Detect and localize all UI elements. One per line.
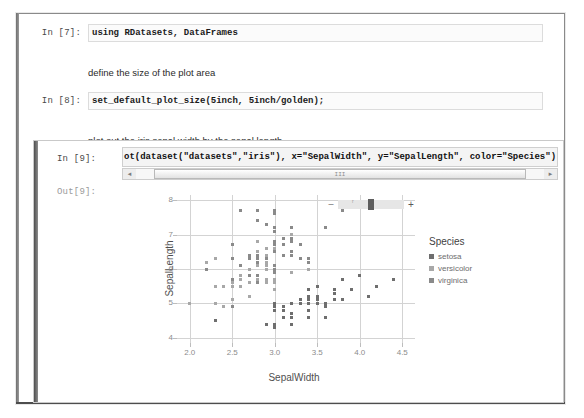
x-axis-label: SepalWidth (174, 372, 414, 383)
scatter-point (290, 226, 293, 229)
scatter-point (273, 281, 276, 284)
legend-item[interactable]: versicolor (429, 264, 525, 273)
markdown-text-1[interactable]: define the size of the plot area (88, 66, 215, 79)
x-tick-mark (360, 343, 361, 347)
scrollbar-right-arrow-icon[interactable]: ► (544, 169, 557, 179)
scatter-point (290, 316, 293, 319)
scatter-point (265, 278, 268, 281)
scatter-point (265, 261, 268, 264)
scatter-point (290, 271, 293, 274)
gridline-horizontal (177, 235, 415, 236)
legend-item[interactable]: setosa (429, 252, 525, 261)
x-tick-mark (190, 343, 191, 347)
scatter-point (265, 268, 268, 271)
scatter-point (282, 309, 285, 312)
scatter-point (214, 285, 217, 288)
scatter-point (256, 281, 259, 284)
y-tick-mark (173, 303, 177, 304)
legend-title: Species (429, 236, 525, 247)
scatter-point (265, 247, 268, 250)
scatter-point (222, 285, 225, 288)
x-tick-label: 2.0 (176, 348, 204, 357)
scatter-point (273, 250, 276, 253)
scatter-point (299, 243, 302, 246)
y-tick-label: 6 (151, 264, 173, 273)
code-text-in7: using RDatasets, DataFrames (89, 25, 542, 42)
scatter-point (265, 323, 268, 326)
notebook-cell-in7[interactable]: In [7]: using RDatasets, DataFrames (25, 24, 543, 42)
scatter-point (307, 298, 310, 301)
zoom-slider-thumb[interactable] (368, 199, 374, 210)
notebook-cell-in8[interactable]: In [8]: set_default_plot_size(5inch, 5in… (25, 92, 543, 110)
legend-item[interactable]: virginica (429, 276, 525, 285)
plot-panel: 456782.02.53.03.54.04.5 (177, 195, 415, 343)
cell-selection-bar (34, 141, 38, 402)
gridline-horizontal (177, 269, 415, 270)
legend-label: versicolor (438, 264, 472, 273)
scatter-point (290, 254, 293, 257)
y-tick-label: 8 (151, 195, 173, 204)
y-tick-label: 7 (151, 230, 173, 239)
gridline-vertical (190, 195, 191, 343)
code-input-in7[interactable]: using RDatasets, DataFrames (88, 24, 543, 42)
scatter-point (205, 268, 208, 271)
scatter-point (307, 288, 310, 291)
scatter-point (358, 274, 361, 277)
gridline-vertical (317, 195, 318, 343)
scrollbar-track[interactable]: III (136, 169, 544, 179)
scatter-point (316, 295, 319, 298)
legend-swatch-icon (429, 266, 434, 271)
zoom-out-icon[interactable]: – (325, 200, 337, 209)
scatter-point (307, 309, 310, 312)
scatter-point (239, 209, 242, 212)
legend-label: setosa (438, 252, 462, 261)
scatter-point (248, 295, 251, 298)
plot-zoom-control[interactable]: – r + (325, 198, 417, 211)
scatter-point (290, 302, 293, 305)
scatter-point (375, 285, 378, 288)
scrollbar-grip-icon: III (335, 171, 346, 178)
scatter-point (273, 278, 276, 281)
zoom-slider-track[interactable]: r (338, 200, 404, 209)
scatter-point (299, 302, 302, 305)
scatter-point (341, 278, 344, 281)
scatter-point (282, 316, 285, 319)
scatter-point (324, 305, 327, 308)
scatter-point (214, 257, 217, 260)
scatter-point (282, 237, 285, 240)
y-tick-mark (173, 338, 177, 339)
code-input-in9[interactable]: ot(dataset("datasets","iris"), x="SepalW… (122, 147, 558, 167)
code-input-in8[interactable]: set_default_plot_size(5inch, 5inch/golde… (88, 92, 543, 110)
scatter-point (290, 323, 293, 326)
scatter-point (307, 261, 310, 264)
zoom-in-icon[interactable]: + (405, 200, 417, 209)
scatter-point (214, 302, 217, 305)
gridline-vertical (360, 195, 361, 343)
scatter-point (256, 261, 259, 264)
scatter-point (273, 323, 276, 326)
scatter-point (248, 274, 251, 277)
scatter-point (231, 257, 234, 260)
scrollbar-thumb[interactable]: III (154, 169, 526, 179)
legend-swatch-icon (429, 254, 434, 259)
scatter-point (256, 219, 259, 222)
plot-output[interactable]: SepalLength SepalWidth 456782.02.53.03.5… (129, 189, 529, 394)
x-tick-mark (317, 343, 318, 347)
x-tick-mark (275, 343, 276, 347)
scrollbar-left-arrow-icon[interactable]: ◄ (123, 169, 136, 179)
legend-swatch-icon (429, 278, 434, 283)
scatter-point (239, 278, 242, 281)
scatter-point (273, 326, 276, 329)
notebook-cell-in9[interactable]: In [9]: ot(dataset("datasets","iris"), x… (33, 140, 564, 403)
scatter-point (265, 257, 268, 260)
scatter-point (350, 288, 353, 291)
scatter-point (367, 295, 370, 298)
scatter-point (256, 209, 259, 212)
scatter-point (205, 261, 208, 264)
scatter-point (214, 319, 217, 322)
scatter-point (273, 302, 276, 305)
x-tick-label: 4.5 (388, 348, 416, 357)
code-horizontal-scrollbar[interactable]: ◄ III ► (122, 168, 558, 180)
scatter-point (248, 281, 251, 284)
x-tick-label: 4.0 (346, 348, 374, 357)
